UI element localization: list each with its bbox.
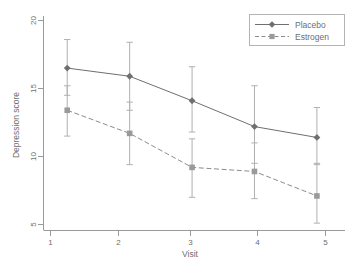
axis-spines — [44, 16, 346, 231]
y-axis-tick-labels: 20 15 10 5 — [29, 16, 38, 227]
x-tick-label-5: 5 — [323, 238, 328, 247]
data-point-marker — [64, 107, 70, 113]
x-axis-ticks — [51, 231, 326, 237]
y-axis-title: Depression score — [11, 92, 21, 158]
data-point-marker — [314, 193, 320, 199]
data-point-marker — [64, 65, 71, 72]
data-point-marker — [127, 131, 133, 137]
data-point-marker — [251, 123, 258, 130]
chart-container: 20 15 10 5 Depression score 1 2 3 4 5 Vi… — [0, 0, 351, 261]
data-point-marker — [252, 169, 258, 175]
x-axis-title: Visit — [182, 249, 199, 259]
y-tick-label-15: 15 — [29, 84, 38, 93]
legend-label-placebo: Placebo — [295, 20, 326, 30]
y-tick-label-20: 20 — [29, 16, 38, 25]
chart-legend[interactable]: Placebo Estrogen — [250, 15, 345, 46]
series-layer — [64, 40, 320, 224]
legend-marker-square-icon — [269, 34, 274, 39]
data-point-marker — [189, 97, 196, 104]
data-point-marker — [314, 134, 321, 141]
depression-score-line-chart: 20 15 10 5 Depression score 1 2 3 4 5 Vi… — [0, 0, 351, 261]
y-axis-ticks — [38, 21, 44, 225]
x-tick-label-4: 4 — [255, 238, 260, 247]
y-tick-label-5: 5 — [29, 222, 38, 227]
x-tick-label-1: 1 — [48, 238, 53, 247]
x-tick-label-3: 3 — [188, 238, 193, 247]
y-tick-label-10: 10 — [29, 152, 38, 161]
x-tick-label-2: 2 — [116, 238, 121, 247]
x-axis-tick-labels: 1 2 3 4 5 — [48, 238, 328, 247]
data-point-marker — [189, 165, 195, 171]
data-point-marker — [126, 73, 133, 80]
legend-label-estrogen: Estrogen — [295, 32, 329, 42]
